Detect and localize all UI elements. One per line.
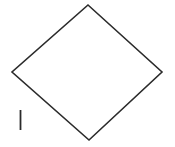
figure-canvas — [0, 0, 175, 147]
geometry-figure-svg — [0, 0, 175, 147]
